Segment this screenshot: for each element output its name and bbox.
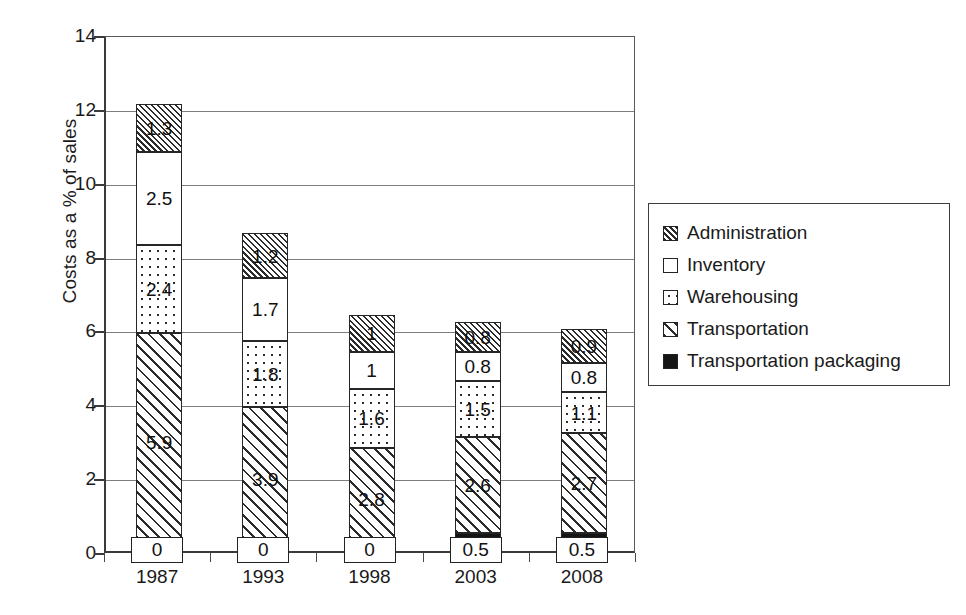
x-axis-tick-label: 2008 <box>537 566 627 588</box>
legend-item-label: Transportation packaging <box>687 350 901 372</box>
x-axis-tick-mark <box>635 553 636 562</box>
y-axis-tick-mark <box>94 405 104 407</box>
baseline-value-label: 0 <box>344 537 396 563</box>
bar-segment[interactable]: 2.8 <box>349 448 395 551</box>
x-axis-tick-label: 1998 <box>325 566 415 588</box>
segment-value-label: 1.1 <box>562 403 606 422</box>
bar-group[interactable]: 5.92.42.51.3 <box>136 34 182 551</box>
y-axis-tick-mark <box>94 184 104 186</box>
segment-value-label: 3.9 <box>243 469 287 488</box>
segment-value-label: 1 <box>350 361 394 380</box>
bar-group[interactable]: 2.81.611 <box>349 34 395 551</box>
x-axis-tick-label: 1993 <box>218 566 308 588</box>
bar-segment[interactable]: 0.9 <box>561 329 607 362</box>
y-axis-tick-mark <box>94 553 104 555</box>
bar-group[interactable]: 2.71.10.80.9 <box>561 34 607 551</box>
bar-segment[interactable]: 1.1 <box>561 392 607 433</box>
baseline-value-label: 0.5 <box>450 537 502 563</box>
x-axis-tick-mark <box>210 553 211 562</box>
bar-segment[interactable]: 0.8 <box>455 352 501 382</box>
legend-item-label: Inventory <box>687 254 765 276</box>
bar-segment[interactable]: 1 <box>349 315 395 352</box>
baseline-value-label: 0 <box>237 537 289 563</box>
segment-value-label: 0.8 <box>456 357 500 376</box>
bar-segment[interactable]: 1.8 <box>242 341 288 407</box>
baseline-value-label: 0 <box>131 537 183 563</box>
y-axis-tick-label: 14 <box>0 25 96 47</box>
segment-value-label: 1.8 <box>243 364 287 383</box>
bar-group[interactable]: 2.61.50.80.8 <box>455 34 501 551</box>
bar-segment[interactable]: 0.8 <box>455 322 501 352</box>
x-axis-tick-label: 1987 <box>112 566 202 588</box>
bar-segment[interactable]: 2.7 <box>561 433 607 533</box>
chart-legend: AdministrationInventoryWarehousingTransp… <box>648 203 950 386</box>
legend-item[interactable]: Warehousing <box>663 281 949 313</box>
baseline-value-label: 0.5 <box>556 537 608 563</box>
x-axis-tick-mark <box>316 553 317 562</box>
segment-value-label: 2.5 <box>137 189 181 208</box>
x-axis-tick-mark <box>104 553 105 562</box>
segment-value-label: 0.8 <box>456 327 500 346</box>
legend-item[interactable]: Administration <box>663 217 949 249</box>
x-axis-tick-mark <box>529 553 530 562</box>
plot-area: 5.92.42.51.33.91.81.71.22.81.6112.61.50.… <box>104 36 635 553</box>
segment-value-label: 2.8 <box>350 490 394 509</box>
y-axis-tick-label: 8 <box>0 247 96 269</box>
bar-segment[interactable]: 0.8 <box>561 363 607 393</box>
bar-segment[interactable]: 1.3 <box>136 104 182 152</box>
segment-value-label: 1.7 <box>243 300 287 319</box>
y-axis-tick-label: 6 <box>0 320 96 342</box>
segment-value-label: 0.8 <box>562 368 606 387</box>
y-axis-tick-label: 4 <box>0 394 96 416</box>
stacked-bar-chart: Costs as a % of sales 02468101214 5.92.4… <box>0 0 966 615</box>
y-axis-tick-label: 0 <box>0 542 96 564</box>
legend-swatch-icon <box>663 322 678 337</box>
legend-swatch-icon <box>663 290 678 305</box>
segment-value-label: 2.7 <box>562 473 606 492</box>
bar-segment[interactable]: 1.5 <box>455 381 501 436</box>
bar-segment[interactable]: 2.4 <box>136 245 182 334</box>
y-axis-tick-mark <box>94 258 104 260</box>
legend-item-label: Transportation <box>687 318 809 340</box>
segment-value-label: 5.9 <box>137 433 181 452</box>
segment-value-label: 1.6 <box>350 409 394 428</box>
x-axis-tick-mark <box>423 553 424 562</box>
segment-value-label: 1.5 <box>456 399 500 418</box>
y-axis-tick-mark <box>94 479 104 481</box>
y-axis-tick-mark <box>94 331 104 333</box>
bar-segment[interactable]: 5.9 <box>136 333 182 551</box>
y-axis-tick-label: 2 <box>0 468 96 490</box>
legend-swatch-icon <box>663 354 678 369</box>
bar-segment[interactable]: 2.6 <box>455 437 501 533</box>
bar-segment[interactable]: 1 <box>349 352 395 389</box>
segment-value-label: 1 <box>350 324 394 343</box>
segment-value-label: 2.4 <box>137 279 181 298</box>
y-axis-tick-mark <box>94 110 104 112</box>
bar-segment[interactable]: 2.5 <box>136 152 182 244</box>
y-axis-tick-mark <box>94 36 104 38</box>
segment-value-label: 1.3 <box>137 119 181 138</box>
legend-item-label: Administration <box>687 222 807 244</box>
legend-items: AdministrationInventoryWarehousingTransp… <box>663 217 949 377</box>
bar-segment[interactable]: 3.9 <box>242 407 288 551</box>
bar-group[interactable]: 3.91.81.71.2 <box>242 34 288 551</box>
legend-swatch-icon <box>663 226 678 241</box>
x-axis-tick-label: 2003 <box>431 566 521 588</box>
bar-segment[interactable]: 1.7 <box>242 278 288 341</box>
segment-value-label: 1.2 <box>243 246 287 265</box>
legend-item[interactable]: Inventory <box>663 249 949 281</box>
legend-swatch-icon <box>663 258 678 273</box>
y-axis-tick-label: 12 <box>0 99 96 121</box>
segment-value-label: 2.6 <box>456 475 500 494</box>
legend-item-label: Warehousing <box>687 286 798 308</box>
bar-segment[interactable]: 1.2 <box>242 233 288 277</box>
legend-item[interactable]: Transportation packaging <box>663 345 949 377</box>
legend-item[interactable]: Transportation <box>663 313 949 345</box>
bar-segment[interactable]: 1.6 <box>349 389 395 448</box>
segment-value-label: 0.9 <box>562 337 606 356</box>
y-axis-tick-label: 10 <box>0 173 96 195</box>
